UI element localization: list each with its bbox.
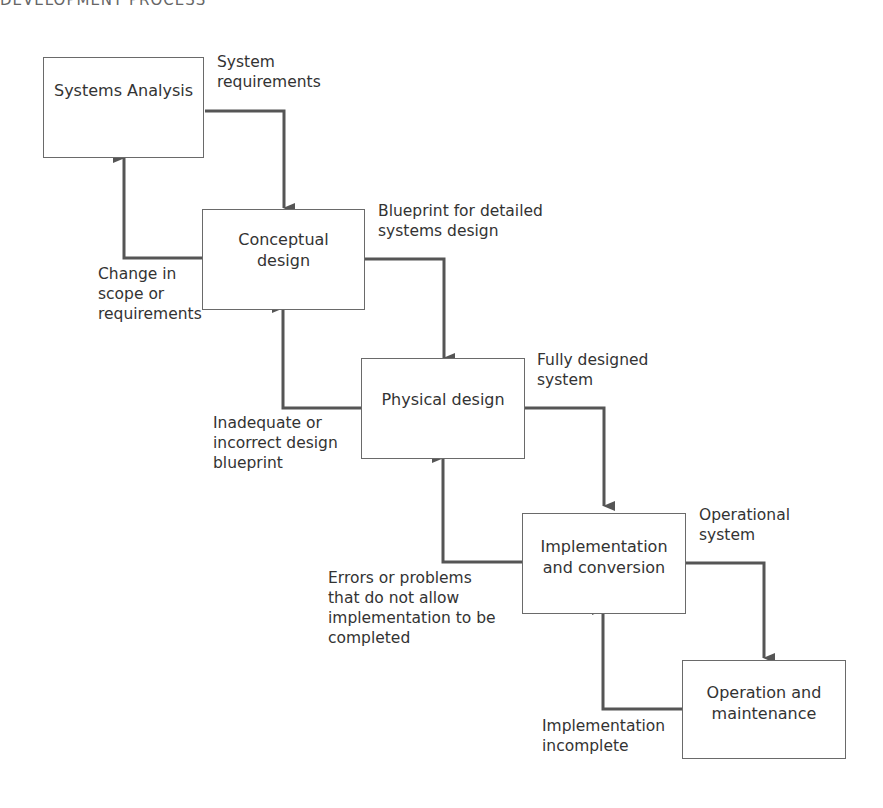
arrow-operational-system: [685, 563, 764, 658]
feedback-label-change-in-scope: Change in scope or requirements: [98, 264, 202, 324]
stage-label: Implementation and conversion: [540, 536, 667, 592]
stage-label: Operation and maintenance: [707, 682, 822, 738]
arrow-system-requirements: [205, 111, 284, 208]
feedback-label-inadequate-blueprint: Inadequate or incorrect design blueprint: [213, 413, 338, 473]
stage-implementation-conversion: Implementation and conversion: [522, 513, 686, 614]
arrow-change-in-scope: [124, 158, 203, 258]
flow-label-operational-system: Operational system: [699, 505, 790, 545]
arrow-errors-problems: [443, 458, 522, 562]
arrow-blueprint: [364, 259, 444, 358]
stage-conceptual-design: Conceptual design: [202, 209, 365, 310]
stage-operation-maintenance: Operation and maintenance: [682, 660, 846, 759]
feedback-label-errors-problems: Errors or problems that do not allow imp…: [328, 568, 496, 648]
arrow-implementation-incomplete: [603, 610, 682, 709]
arrow-fully-designed: [524, 408, 604, 506]
flow-label-system-requirements: System requirements: [217, 52, 321, 92]
stage-label: Systems Analysis: [54, 80, 193, 101]
stage-systems-analysis: Systems Analysis: [43, 57, 204, 158]
arrow-inadequate-blueprint: [283, 308, 361, 408]
stage-physical-design: Physical design: [361, 358, 525, 459]
stage-label: Conceptual design: [238, 229, 329, 291]
flow-label-blueprint: Blueprint for detailed systems design: [378, 201, 543, 241]
feedback-label-implementation-incomplete: Implementation incomplete: [542, 716, 665, 756]
stage-label: Physical design: [381, 389, 504, 428]
flow-label-fully-designed: Fully designed system: [537, 350, 648, 390]
